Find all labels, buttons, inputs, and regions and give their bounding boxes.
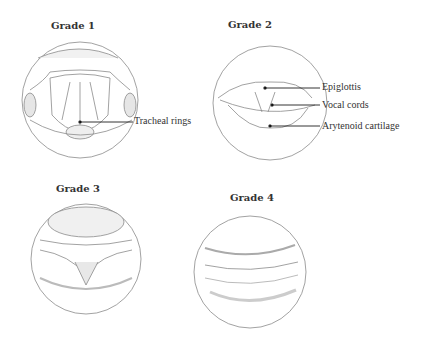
- laryngoscopy-diagram: [0, 0, 426, 340]
- grade-3-title: Grade 3: [56, 183, 100, 194]
- grade-4-title: Grade 4: [230, 192, 274, 203]
- label-epiglottis: Epiglottis: [322, 81, 361, 92]
- grade-2-illustration: [213, 46, 327, 160]
- grade-1-title: Grade 1: [51, 20, 95, 31]
- grade-1-illustration: [22, 42, 138, 158]
- label-arytenoid-cartilage: Arytenoid cartilage: [322, 120, 399, 131]
- grade-3-illustration: [31, 204, 141, 314]
- label-tracheal-rings: Tracheal rings: [134, 115, 191, 126]
- grade-4-illustration: [194, 216, 306, 328]
- grade-2-title: Grade 2: [228, 19, 272, 30]
- label-vocal-cords: Vocal cords: [322, 99, 369, 110]
